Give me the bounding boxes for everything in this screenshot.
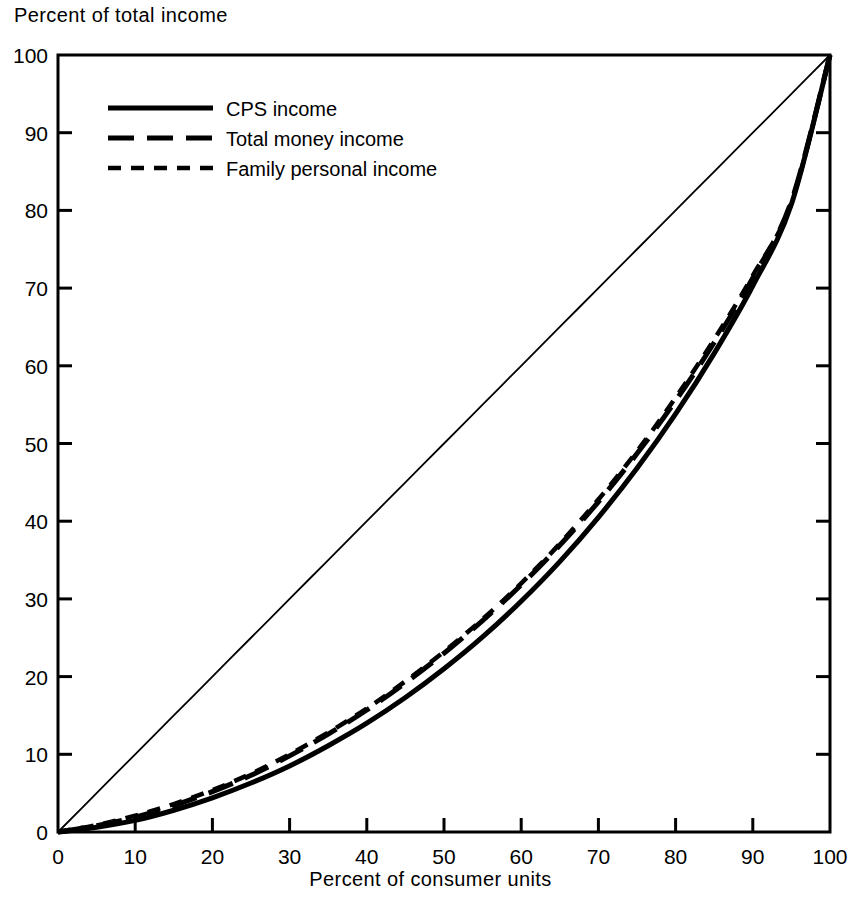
legend-label: CPS income: [226, 98, 337, 120]
legend-label: Family personal income: [226, 158, 437, 180]
y-tick-label: 10: [25, 743, 48, 766]
y-tick-label: 30: [25, 588, 48, 611]
x-tick-label: 10: [124, 845, 147, 868]
legend-label: Total money income: [226, 128, 404, 150]
x-tick-label: 90: [741, 845, 764, 868]
x-tick-label: 60: [510, 845, 533, 868]
x-tick-label: 70: [587, 845, 610, 868]
x-tick-label: 40: [355, 845, 378, 868]
y-tick-label: 40: [25, 510, 48, 533]
x-tick-label: 100: [812, 845, 847, 868]
x-tick-label: 30: [278, 845, 301, 868]
x-tick-label: 0: [52, 845, 64, 868]
y-tick-label: 50: [25, 433, 48, 456]
lorenz-curve-figure: Percent of total income 0102030405060708…: [0, 0, 861, 901]
chart-plot-area: 0102030405060708090100010203040506070809…: [0, 0, 861, 901]
x-tick-label: 80: [664, 845, 687, 868]
x-tick-label: 20: [201, 845, 224, 868]
y-tick-label: 0: [36, 821, 48, 844]
y-tick-label: 20: [25, 666, 48, 689]
y-tick-label: 60: [25, 355, 48, 378]
x-axis-title: Percent of consumer units: [0, 868, 861, 891]
x-tick-label: 50: [432, 845, 455, 868]
y-tick-label: 100: [13, 44, 48, 67]
y-tick-label: 70: [25, 277, 48, 300]
y-tick-label: 80: [25, 199, 48, 222]
y-tick-label: 90: [25, 122, 48, 145]
